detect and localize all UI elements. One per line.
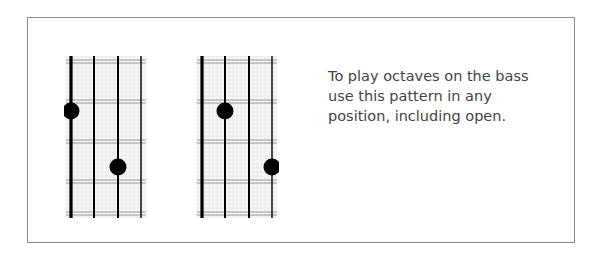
finger-dot: [217, 103, 234, 120]
fretboard-diagram-right: [195, 56, 279, 218]
finger-dot: [110, 159, 127, 176]
caption-line-1: To play octaves on the bass: [328, 66, 568, 86]
caption-line-2: use this pattern in any: [328, 86, 568, 106]
fretboard-diagram-left: [64, 56, 148, 218]
caption-text: To play octaves on the bass use this pat…: [328, 66, 568, 126]
caption-line-3: position, including open.: [328, 106, 568, 126]
